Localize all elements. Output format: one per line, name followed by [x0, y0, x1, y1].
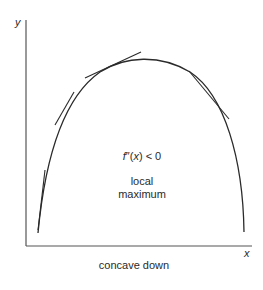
annotation-line-2: maximum	[118, 188, 166, 201]
x-axis-label: x	[244, 247, 250, 259]
second-derivative-condition: f″(x) < 0	[123, 150, 161, 162]
tangent-line-right	[189, 71, 229, 119]
tangent-line-left	[55, 92, 74, 125]
annotation-line-1: local	[118, 175, 166, 188]
inequality: < 0	[143, 150, 162, 162]
concave-down-plot	[0, 0, 263, 290]
y-axis-label: y	[15, 16, 21, 28]
tangent-line-top	[85, 52, 141, 78]
diagram-caption: concave down	[99, 259, 169, 271]
concave-down-curve	[38, 59, 244, 233]
tangent-line-lower-left	[38, 170, 45, 230]
local-maximum-annotation: local maximum	[118, 175, 166, 201]
